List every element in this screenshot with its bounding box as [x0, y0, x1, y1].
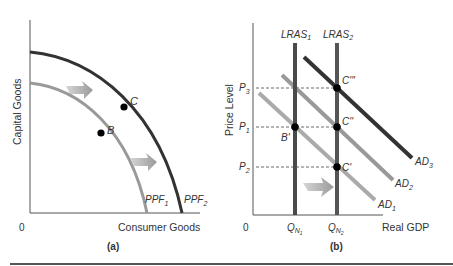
point-c-label: C — [130, 95, 138, 107]
x-axis-label: Consumer Goods — [118, 221, 200, 233]
p3-label: P3 — [239, 82, 250, 95]
ppf2-label: PPF2 — [184, 194, 207, 207]
point-b-prime-label: B' — [281, 132, 291, 143]
lras2-label: LRAS2 — [323, 29, 353, 41]
point-c-prime-label: C' — [342, 162, 352, 173]
caption-b: (b) — [330, 241, 343, 252]
figure: B C PPF1 PPF2 Capital Goods 0 Consumer G… — [0, 0, 453, 266]
ad3-curve — [304, 57, 412, 158]
point-b-label: B — [107, 124, 114, 136]
point-b-prime — [291, 123, 299, 131]
ad1-label: AD1 — [377, 199, 396, 212]
x-axis-label: Real GDP — [382, 221, 429, 233]
y-axis-label: Capital Goods — [11, 78, 23, 145]
point-c-double-prime-label: C'' — [342, 116, 354, 127]
point-b — [97, 129, 104, 136]
point-c-triple-prime — [333, 84, 341, 92]
point-c-triple-prime-label: C''' — [342, 75, 356, 86]
point-c-prime — [333, 163, 341, 171]
shift-arrow-icon — [303, 177, 334, 197]
qn1-label: QN1 — [287, 222, 303, 236]
origin-label: 0 — [19, 222, 25, 233]
p2-label: P2 — [239, 161, 250, 174]
lras1-label: LRAS1 — [281, 29, 311, 41]
ad2-label: AD2 — [394, 178, 413, 191]
caption-a: (a) — [107, 241, 119, 252]
panel-a: B C PPF1 PPF2 Capital Goods 0 Consumer G… — [11, 20, 207, 252]
origin-label: 0 — [243, 222, 249, 233]
ppf1-label: PPF1 — [145, 194, 168, 207]
ppf2-curve — [30, 52, 182, 213]
qn2-label: QN2 — [328, 222, 344, 236]
point-c-double-prime — [333, 123, 341, 131]
p1-label: P1 — [239, 121, 250, 134]
ad3-label: AD3 — [414, 156, 433, 169]
panel-b: B' C' C'' C''' LRAS1 LRAS2 AD1 AD2 AD3 P… — [223, 23, 433, 252]
y-axis-label: Price Level — [223, 84, 235, 136]
point-c — [120, 103, 127, 110]
